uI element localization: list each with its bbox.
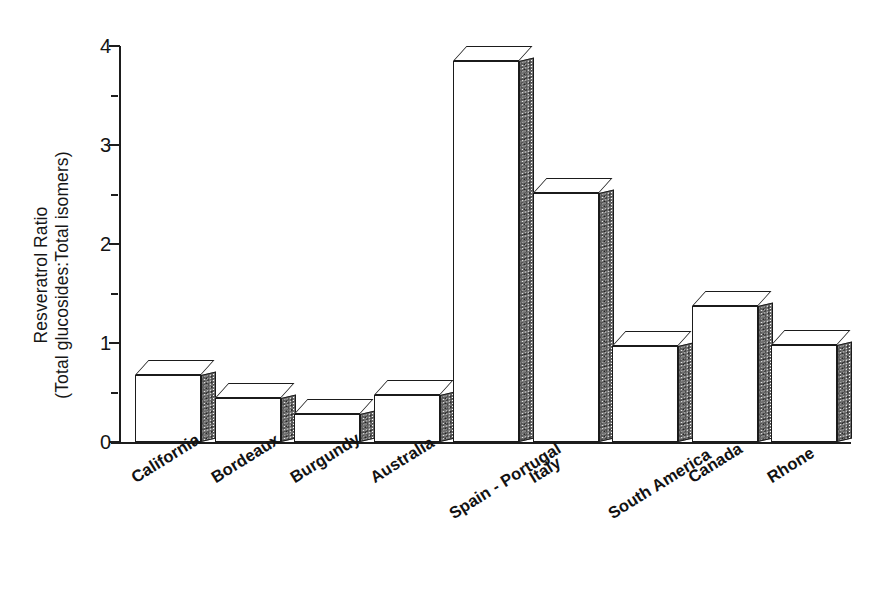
bar-top-face	[533, 178, 613, 193]
bar-top-face	[771, 330, 851, 345]
y-minor-tick-mark	[111, 293, 118, 295]
bar-top-face	[612, 331, 692, 346]
bar-front-face	[692, 306, 758, 442]
x-axis-labels: CaliforniaBordeauxBurgundyAustraliaSpain…	[119, 447, 879, 607]
bar	[612, 331, 693, 442]
bar	[294, 399, 375, 442]
bar-front-face	[612, 346, 678, 442]
bar-top-face	[135, 360, 215, 375]
y-minor-tick-mark	[111, 194, 118, 196]
bar-top-face	[374, 380, 454, 395]
bar	[374, 380, 455, 442]
y-minor-tick-mark	[111, 392, 118, 394]
bar-top-face	[453, 46, 533, 61]
y-axis-title-line-2: (Total glucosides:Total isomers)	[52, 151, 73, 398]
y-tick-label: 0	[100, 432, 111, 452]
bar	[771, 330, 852, 442]
bar-top-face	[294, 399, 374, 414]
y-minor-tick-mark	[111, 95, 118, 97]
bar-side-face	[837, 341, 852, 442]
x-axis-label: Spain - Portugal	[446, 440, 563, 522]
x-axis-label: Rhone	[764, 444, 817, 485]
bar-top-face	[215, 383, 295, 398]
bar	[135, 360, 216, 442]
y-axis-title: Resveratrol Ratio (Total glucosides:Tota…	[22, 105, 82, 445]
chart-figure: Resveratrol Ratio (Total glucosides:Tota…	[0, 0, 879, 607]
bar	[533, 178, 614, 442]
plot-area: 01234	[119, 40, 864, 445]
bar-top-face	[692, 291, 772, 306]
bar	[692, 291, 773, 442]
bar-series	[119, 40, 864, 445]
bar	[215, 383, 296, 442]
y-tick-label: 2	[100, 234, 111, 254]
y-tick-label: 3	[100, 135, 111, 155]
bar	[453, 46, 534, 442]
y-axis-title-line-1: Resveratrol Ratio	[31, 207, 52, 344]
y-tick-label: 4	[100, 36, 111, 56]
y-tick-label: 1	[100, 333, 111, 353]
bar-front-face	[453, 61, 519, 442]
bar-front-face	[533, 193, 599, 442]
bar-front-face	[771, 345, 837, 442]
